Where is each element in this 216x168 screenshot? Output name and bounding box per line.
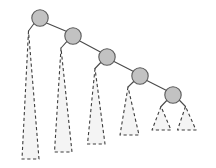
tree-node-n4 (132, 68, 148, 84)
tree-edge-n2-to-n3 (80, 41, 101, 52)
subtree-triangle-t3 (88, 69, 106, 145)
subtree-triangle-t5 (152, 107, 171, 131)
tree-edge-n1-to-t1 (29, 23, 35, 31)
tree-edge-n5-to-t5 (161, 100, 167, 107)
tree-node-n1 (32, 10, 48, 26)
tree-edge-n3-to-t3 (95, 62, 101, 69)
subtree-triangle-t6 (178, 107, 197, 131)
tree-edge-n1-to-n2 (47, 23, 67, 32)
tree-edge-n2-to-t2 (61, 41, 67, 48)
subtree-triangle-t1 (22, 31, 39, 159)
tree-node-n5 (165, 87, 181, 103)
tree-diagram-canvas (0, 0, 216, 168)
subtree-triangle-t2 (55, 48, 73, 152)
subtree-triangle-t4 (120, 87, 139, 135)
tree-edge-n3-to-n4 (114, 62, 134, 72)
tree-edge-n5-to-t6 (179, 100, 185, 107)
tree-node-group (32, 10, 181, 103)
tree-edge-n4-to-n5 (147, 81, 167, 91)
tree-diagram-figure (0, 0, 216, 168)
tree-edge-n4-to-t4 (128, 81, 134, 87)
tree-node-n2 (65, 28, 81, 44)
tree-node-n3 (99, 49, 115, 65)
